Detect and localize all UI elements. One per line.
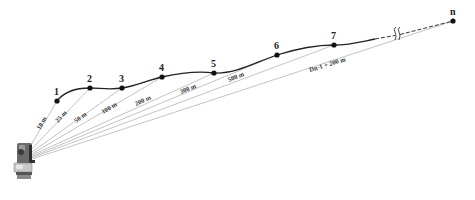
point-label-5: 5 (211, 58, 216, 69)
point-label-4: 4 (159, 62, 164, 73)
distance-label-100m: 100 m (100, 100, 119, 115)
point-3 (119, 85, 124, 90)
point-label-7: 7 (331, 30, 336, 41)
traverse-points (54, 18, 455, 103)
total-station-icon (14, 143, 35, 179)
point-label-6: 6 (274, 40, 279, 51)
point-label-2: 2 (87, 73, 92, 84)
distance-label-n: Dn-1 + 200 m (308, 55, 346, 73)
point-5 (211, 70, 216, 75)
sight-line-n (32, 21, 453, 159)
break-symbol (394, 27, 400, 40)
point-label-1: 1 (54, 86, 59, 97)
point-4 (159, 74, 164, 79)
point-n (450, 18, 455, 23)
point-7 (331, 42, 336, 47)
sight-line-7 (31, 45, 334, 158)
point-label-3: 3 (119, 73, 124, 84)
point-6 (274, 52, 279, 57)
traverse-path-dashed (375, 21, 453, 39)
traverse-path (57, 39, 375, 101)
point-label-n: n (450, 6, 456, 17)
point-1 (54, 98, 59, 103)
point-2 (87, 85, 92, 90)
distance-label-300m: 300 m (179, 82, 198, 95)
distance-label-25m: 25 m (54, 108, 69, 123)
traverse-diagram: 1 2 3 4 5 6 7 n 10 m 25 m 50 m 100 m 200… (0, 0, 475, 200)
distance-label-10m: 10 m (35, 115, 48, 131)
